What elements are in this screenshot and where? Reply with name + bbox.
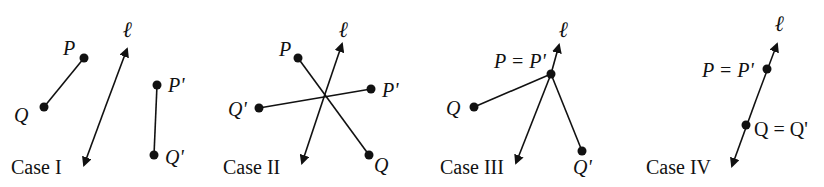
point-q-prime [578, 147, 587, 156]
reflection-cases-figure: P Q P' Q' ℓ Case I P Q P' Q' ℓ Case II P… [0, 0, 824, 187]
case-1: P Q P' Q' ℓ Case I [11, 16, 185, 178]
case-3: P = P' Q Q' ℓ Case III [440, 16, 592, 178]
line-l-up [551, 45, 559, 74]
label-line-l: ℓ [339, 16, 348, 42]
label-line-l: ℓ [775, 10, 784, 36]
point-q-equals-q-prime [742, 121, 751, 130]
label-q-equals-q-prime: Q = Q' [754, 118, 808, 140]
point-p-prime [153, 81, 162, 90]
point-q-prime [150, 151, 159, 160]
label-q: Q [14, 104, 29, 126]
caption-case-2: Case II [223, 156, 280, 178]
line-l-down [302, 97, 324, 163]
line-l-down [732, 100, 756, 166]
label-p-equals-p-prime: P = P' [701, 59, 755, 81]
label-p-prime: P' [381, 79, 399, 101]
label-q-prime: Q' [165, 146, 184, 168]
point-q [470, 103, 479, 112]
point-p-prime [367, 85, 376, 94]
segment-pq [44, 58, 84, 107]
point-p [80, 54, 89, 63]
segment-pq-prime [551, 74, 582, 151]
point-q [365, 151, 374, 160]
label-q-prime: Q' [573, 156, 592, 178]
case-4: P = P' Q = Q' ℓ Case IV [646, 10, 808, 178]
label-p-prime: P' [167, 74, 185, 96]
label-line-l: ℓ [123, 16, 132, 42]
caption-case-1: Case I [11, 156, 62, 178]
point-q [40, 103, 49, 112]
label-q: Q [446, 97, 461, 119]
segment-pq-prime [154, 85, 157, 155]
point-p-equals-p-prime [547, 70, 556, 79]
line-l-up [105, 49, 127, 108]
segment-pq-prime [259, 89, 371, 108]
line-l-down [84, 108, 105, 165]
point-p-equals-p-prime [763, 65, 772, 74]
label-line-l: ℓ [559, 16, 568, 42]
segment-pq [298, 58, 369, 155]
line-l-up [324, 44, 342, 97]
label-q-prime: Q' [228, 98, 247, 120]
caption-case-4: Case IV [646, 156, 712, 178]
point-q-prime [255, 104, 264, 113]
label-q: Q [374, 154, 389, 176]
caption-case-3: Case III [440, 156, 504, 178]
case-2: P Q P' Q' ℓ Case II [223, 16, 399, 178]
label-p-equals-p-prime: P = P' [493, 50, 547, 72]
label-p: P [62, 37, 75, 59]
label-p: P [278, 38, 291, 60]
point-p [294, 54, 303, 63]
